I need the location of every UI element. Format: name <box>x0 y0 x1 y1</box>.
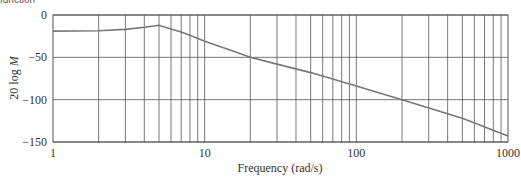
svg-text:−50: −50 <box>28 50 47 64</box>
plot-frame <box>53 15 508 142</box>
bode-magnitude-chart: 0−50−100−150 1101001000 Frequency (rad/s… <box>0 0 521 186</box>
x-axis-label: Frequency (rad/s) <box>238 161 323 175</box>
y-axis-label: 20 log M <box>7 55 21 99</box>
svg-text:1: 1 <box>50 146 56 160</box>
grid-lines <box>53 15 508 142</box>
svg-text:10: 10 <box>199 146 211 160</box>
svg-text:100: 100 <box>347 146 365 160</box>
svg-text:−150: −150 <box>22 135 47 149</box>
svg-text:0: 0 <box>41 8 47 22</box>
x-tick-labels: 1101001000 <box>50 146 520 160</box>
svg-text:−100: −100 <box>22 93 47 107</box>
y-tick-labels: 0−50−100−150 <box>22 8 47 149</box>
svg-text:1000: 1000 <box>496 146 520 160</box>
magnitude-curve <box>53 25 508 136</box>
